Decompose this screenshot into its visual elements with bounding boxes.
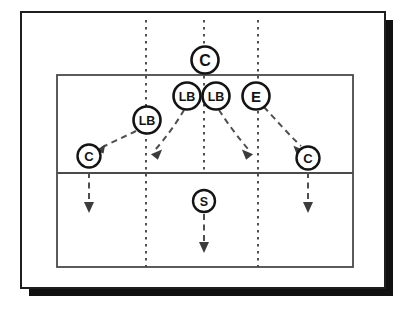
player-corner-left[interactable]: C [78, 145, 101, 168]
player-label: LB [139, 114, 156, 128]
player-label: S [200, 195, 208, 209]
player-lb-left[interactable]: LB [134, 107, 161, 134]
player-label: C [199, 52, 211, 69]
player-coach-top[interactable]: C [192, 47, 219, 74]
diagram-canvas: C LB LB E LB C [0, 0, 408, 312]
player-safety[interactable]: S [193, 190, 215, 212]
play-diagram: C LB LB E LB C [0, 0, 408, 312]
player-label: E [251, 88, 261, 105]
player-lb-center-left[interactable]: LB [174, 83, 201, 110]
player-lb-center-right[interactable]: LB [203, 83, 230, 110]
player-label: C [84, 149, 94, 164]
player-label: C [303, 151, 313, 166]
player-label: LB [179, 90, 196, 104]
player-end-right[interactable]: E [243, 83, 270, 110]
player-label: LB [208, 90, 225, 104]
player-corner-right[interactable]: C [297, 147, 320, 170]
